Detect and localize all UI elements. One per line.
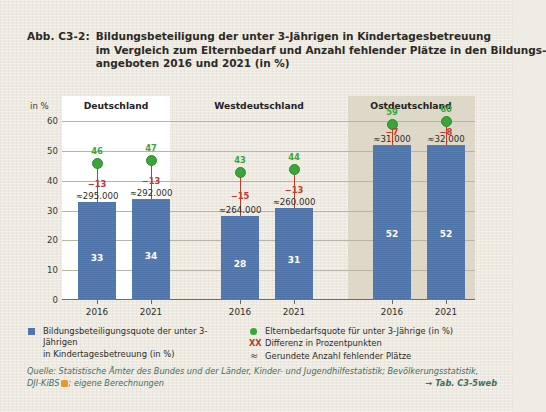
x-axis-tick-westdeutschland-2016 (240, 300, 241, 304)
y-axis-tick-10: 10 (22, 265, 58, 275)
y-axis-tick-20: 20 (22, 235, 58, 245)
bar-value-westdeutschland-2021: 31 (275, 255, 313, 265)
x-axis-label-deutschland-2016: 2016 (75, 307, 119, 317)
x-axis-label-westdeutschland-2021: 2021 (272, 307, 316, 317)
figure-title-line-1: Bildungsbeteiligung der unter 3-Jährigen… (96, 30, 546, 44)
dot-westdeutschland-2016[interactable] (235, 167, 246, 178)
dot-ostdeutschland-2021[interactable] (441, 116, 452, 127)
x-axis-tick-deutschland-2021 (151, 300, 152, 304)
difference-value-deutschland-2016: −13 (75, 179, 119, 189)
missing-places-westdeutschland-2021: ≈260.000 (259, 197, 329, 207)
gridline-10 (62, 270, 475, 271)
bar-deutschland-2016[interactable] (78, 202, 116, 300)
y-axis-tick-50: 50 (22, 146, 58, 156)
figure-title-block: Abb. C3-2: Bildungsbeteiligung der unter… (27, 30, 495, 71)
legend-approx-icon: ≈ (250, 350, 258, 361)
missing-places-ostdeutschland-2021: ≈32.000 (411, 134, 481, 144)
x-axis-tick-ostdeutschland-2021 (446, 300, 447, 304)
legend-label-line-1: Bildungsbeteiligungsquote der unter 3-Jä… (43, 326, 242, 349)
legend-label-differenz: Differenz in Prozentpunkten (265, 338, 509, 349)
legend-xx-icon: XX (249, 338, 262, 349)
legend-item-differenz: XXDifferenz in Prozentpunkten (249, 338, 509, 349)
gridline-20 (62, 240, 475, 241)
bar-value-westdeutschland-2016: 28 (221, 259, 259, 269)
x-axis-line (62, 299, 475, 300)
bar-value-deutschland-2016: 33 (78, 253, 116, 263)
legend-label-elternbedarfsquote: Elternbedarfsquote für unter 3-Jährige (… (265, 326, 509, 337)
figure-title-line-2: im Vergleich zum Elternbedarf und Anzahl… (96, 44, 546, 58)
group-header-westdeutschland: Westdeutschland (199, 100, 319, 111)
dot-value-deutschland-2016: 46 (75, 146, 119, 156)
figure-title-line-3: angeboten 2016 und 2021 (in %) (96, 57, 546, 71)
difference-value-westdeutschland-2016: −15 (218, 191, 262, 201)
source-note: Quelle: Statistische Ämter des Bundes un… (27, 366, 497, 389)
table-reference-link[interactable]: → Tab. C3-5web (426, 378, 497, 390)
legend-item-elternbedarfsquote: Elternbedarfsquote für unter 3-Jährige (… (249, 326, 509, 337)
difference-value-westdeutschland-2021: −13 (272, 185, 316, 195)
gridline-50 (62, 151, 475, 152)
y-axis-tick-0: 0 (22, 295, 58, 305)
kibs-info-icon[interactable] (61, 380, 68, 387)
figure-number: Abb. C3-2: (27, 30, 96, 44)
source-line-2-suffix: ; eigene Berechnungen (69, 378, 164, 388)
missing-places-westdeutschland-2016: ≈264.000 (205, 205, 275, 215)
bar-value-ostdeutschland-2016: 52 (373, 229, 411, 239)
source-line-1: Quelle: Statistische Ämter des Bundes un… (27, 366, 497, 378)
x-axis-tick-westdeutschland-2021 (294, 300, 295, 304)
bar-westdeutschland-2021[interactable] (275, 208, 313, 300)
legend-item-bildungsbeteiligungsquote: Bildungsbeteiligungsquote der unter 3-Jä… (27, 326, 242, 360)
gridline-60 (62, 121, 475, 122)
difference-value-deutschland-2021: −13 (129, 176, 173, 186)
bar-deutschland-2021[interactable] (132, 199, 170, 300)
x-axis-label-deutschland-2021: 2021 (129, 307, 173, 317)
dot-value-westdeutschland-2016: 43 (218, 155, 262, 165)
bar-value-deutschland-2021: 34 (132, 251, 170, 261)
dot-value-deutschland-2021: 47 (129, 143, 173, 153)
legend-label-fehlende-plaetze: Gerundete Anzahl fehlender Plätze (265, 351, 509, 362)
y-axis-tick-40: 40 (22, 176, 58, 186)
legend-blue-square-icon (28, 328, 35, 335)
legend-label-line-2: in Kindertagesbetreuung (in %) (43, 349, 242, 360)
x-axis-tick-deutschland-2016 (97, 300, 98, 304)
bar-ostdeutschland-2016[interactable] (373, 145, 411, 300)
gridline-40 (62, 181, 475, 182)
source-dji-kibs: DJI-KiBS (27, 378, 60, 388)
legend-column-left: Bildungsbeteiligungsquote der unter 3-Jä… (27, 326, 242, 361)
bar-value-ostdeutschland-2021: 52 (427, 229, 465, 239)
y-axis-tick-30: 30 (22, 206, 58, 216)
x-axis-label-westdeutschland-2016: 2016 (218, 307, 262, 317)
y-axis-tick-60: 60 (22, 116, 58, 126)
dot-value-ostdeutschland-2016: 59 (370, 107, 414, 117)
legend-item-fehlende-plaetze: ≈Gerundete Anzahl fehlender Plätze (249, 351, 509, 362)
bar-ostdeutschland-2021[interactable] (427, 145, 465, 300)
y-axis-unit-label: in % (30, 101, 49, 111)
x-axis-label-ostdeutschland-2021: 2021 (424, 307, 468, 317)
dot-deutschland-2021[interactable] (146, 155, 157, 166)
legend-column-right: Elternbedarfsquote für unter 3-Jährige (… (249, 326, 509, 363)
legend-green-circle-icon (250, 328, 257, 335)
dot-westdeutschland-2021[interactable] (289, 164, 300, 175)
dot-value-ostdeutschland-2021: 60 (424, 104, 468, 114)
missing-places-deutschland-2021: ≈292.000 (116, 188, 186, 198)
dot-value-westdeutschland-2021: 44 (272, 152, 316, 162)
figure-title: Bildungsbeteiligung der unter 3-Jährigen… (96, 30, 546, 71)
dot-deutschland-2016[interactable] (92, 158, 103, 169)
x-axis-tick-ostdeutschland-2016 (392, 300, 393, 304)
x-axis-label-ostdeutschland-2016: 2016 (370, 307, 414, 317)
group-header-deutschland: Deutschland (56, 100, 176, 111)
